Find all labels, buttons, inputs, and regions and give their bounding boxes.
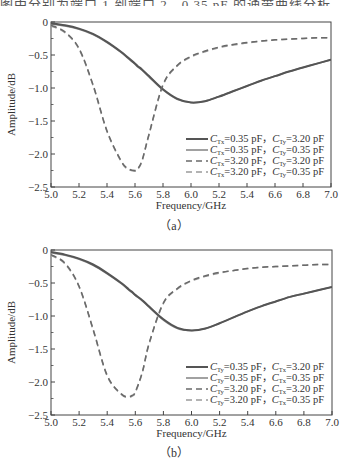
y-tick-label: −1.0 [28, 82, 48, 94]
legend: CTx=0.35 pF，CTy=3.20 pFCTx=0.35 pF，CTy=0… [186, 133, 324, 178]
x-tick-label: 5.4 [100, 416, 114, 428]
legend-entry: CTx=3.20 pF，CTy=0.35 pF [210, 166, 324, 178]
plot-area: 5.05.25.45.65.86.05.25.46.66.87.00−0.5−1… [5, 16, 338, 211]
x-tick-label: 5.6 [128, 188, 142, 200]
x-tick-label: 6.8 [297, 416, 311, 428]
x-tick-label: 5.4 [240, 188, 254, 200]
series-line-2 [51, 24, 331, 103]
legend-entry: CTy=3.20 pF，CTx=0.35 pF [210, 394, 324, 406]
chart-b-plot: 5.05.25.45.65.86.05.25.46.66.87.00−0.5−1… [0, 228, 348, 443]
x-tick-label: 5.6 [128, 416, 142, 428]
y-tick-label: −2.5 [28, 409, 48, 421]
y-tick-label: −1.0 [28, 310, 48, 322]
y-tick-label: 0 [43, 16, 49, 28]
plot-area: 5.05.25.45.65.86.05.25.46.66.87.00−0.5−1… [5, 244, 339, 439]
y-tick-label: −0.5 [28, 49, 48, 61]
x-tick-label: 5.4 [100, 188, 114, 200]
chart-b: 5.05.25.45.65.86.05.25.46.66.87.00−0.5−1… [0, 228, 348, 443]
x-axis-title: Frequency/GHz [156, 199, 226, 211]
series-line-1 [51, 252, 332, 331]
chart-b-caption: （b） [144, 443, 204, 461]
y-axis-title: Amplitude/dB [5, 301, 17, 364]
x-tick-label: 6.8 [296, 188, 310, 200]
chart-a: 5.05.25.45.65.86.05.25.46.66.87.00−0.5−1… [0, 0, 348, 230]
x-tick-label: 5.2 [72, 188, 86, 200]
x-tick-label: 5.2 [72, 416, 86, 428]
x-tick-label: 7.0 [324, 188, 338, 200]
x-tick-label: 5.4 [241, 416, 255, 428]
legend: CTy=0.35 pF，CTx=3.20 pFCTy=0.35 pF，CTx=0… [186, 361, 324, 406]
x-tick-label: 7.0 [325, 416, 339, 428]
y-tick-label: −2.0 [28, 376, 48, 388]
x-axis-title: Frequency/GHz [156, 427, 226, 439]
x-tick-label: 6.6 [269, 416, 283, 428]
y-axis-title: Amplitude/dB [5, 73, 17, 136]
y-tick-label: −2.5 [28, 181, 48, 193]
y-tick-label: −2.0 [28, 148, 48, 160]
y-tick-label: −1.5 [28, 115, 48, 127]
y-tick-label: −1.5 [28, 343, 48, 355]
y-tick-label: 0 [43, 244, 49, 256]
chart-a-plot: 5.05.25.45.65.86.05.25.46.66.87.00−0.5−1… [0, 0, 348, 230]
x-tick-label: 6.6 [268, 188, 282, 200]
y-tick-label: −0.5 [28, 277, 48, 289]
